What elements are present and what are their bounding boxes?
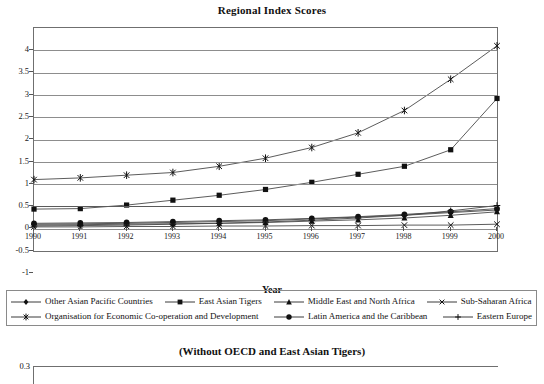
x-tick-label: 1998 — [388, 233, 418, 241]
y-tick-mark — [29, 161, 33, 162]
data-point — [448, 75, 454, 83]
x-tick-mark — [357, 227, 358, 231]
legend-item[interactable]: Latin America and the Caribbean — [274, 311, 427, 323]
x-marker-icon — [427, 296, 457, 308]
data-point — [263, 187, 268, 192]
y-tick-mark — [29, 138, 33, 139]
gridline — [34, 229, 497, 230]
y-tick-mark — [29, 250, 33, 251]
diamond-marker-icon — [11, 296, 41, 308]
legend-label: Organisation for Economic Co-operation a… — [45, 312, 259, 321]
legend-item[interactable]: Eastern Europe — [443, 311, 532, 323]
y-tick-label: 0 — [0, 223, 29, 232]
x-tick-label: 1990 — [18, 233, 48, 241]
x-tick-label: 1996 — [296, 233, 326, 241]
data-point — [356, 172, 361, 177]
x-tick-label: 2000 — [481, 233, 511, 241]
legend-item[interactable]: East Asian Tigers — [165, 296, 262, 308]
y-tick-label: 0.5 — [0, 201, 29, 210]
legend-label: Eastern Europe — [477, 312, 532, 321]
gridline — [34, 117, 497, 118]
legend-label: East Asian Tigers — [199, 297, 262, 306]
x-tick-mark — [496, 227, 497, 231]
subchart-ytick-label: 0.3 — [2, 362, 30, 371]
y-tick-mark — [29, 272, 33, 273]
y-tick-mark — [29, 71, 33, 72]
x-tick-label: 1994 — [203, 233, 233, 241]
legend-row: Other Asian Pacific CountriesEast Asian … — [11, 294, 532, 309]
x-tick-label: 1997 — [342, 233, 372, 241]
x-tick-mark — [79, 227, 80, 231]
data-point — [217, 193, 222, 198]
data-point — [402, 164, 407, 169]
x-tick-mark — [126, 227, 127, 231]
legend-item[interactable]: Sub-Saharan Africa — [427, 296, 532, 308]
y-tick-label: 1.5 — [0, 157, 29, 166]
page-title: Regional Index Scores — [0, 4, 544, 16]
triangle-marker-icon — [274, 296, 304, 308]
y-tick-mark — [29, 94, 33, 95]
legend-row: Organisation for Economic Co-operation a… — [11, 309, 532, 324]
x-tick-mark — [311, 227, 312, 231]
x-tick-label: 1999 — [435, 233, 465, 241]
x-tick-mark — [450, 227, 451, 231]
x-tick-label: 1992 — [111, 233, 141, 241]
x-tick-label: 1995 — [250, 233, 280, 241]
data-point — [494, 42, 500, 50]
legend-item[interactable]: Other Asian Pacific Countries — [11, 296, 153, 308]
gridline — [34, 140, 497, 141]
y-tick-label: 2.5 — [0, 112, 29, 121]
gridline — [34, 95, 497, 96]
legend-label: Latin America and the Caribbean — [308, 312, 427, 321]
legend: Other Asian Pacific CountriesEast Asian … — [6, 290, 537, 326]
y-tick-label: 3.5 — [0, 67, 29, 76]
plus-marker-icon — [443, 311, 473, 323]
subchart-title: (Without OECD and East Asian Tigers) — [0, 345, 544, 357]
x-tick-label: 1993 — [157, 233, 187, 241]
gridline — [34, 162, 497, 163]
chart-page: Regional Index Scores -1-0.500.511.522.5… — [0, 0, 544, 384]
plot-area — [33, 27, 498, 252]
star-marker-icon — [11, 311, 41, 323]
y-tick-label: -0.5 — [0, 246, 29, 255]
y-tick-mark — [29, 49, 33, 50]
data-point — [494, 96, 499, 101]
x-tick-mark — [403, 227, 404, 231]
gridline — [34, 206, 497, 207]
y-tick-mark — [29, 116, 33, 117]
square-marker-icon — [165, 296, 195, 308]
x-tick-mark — [265, 227, 266, 231]
series-line — [34, 99, 497, 210]
y-tick-label: 4 — [0, 45, 29, 54]
y-tick-label: 2 — [0, 134, 29, 143]
gridline — [34, 184, 497, 185]
data-point — [448, 147, 453, 152]
main-chart: -1-0.500.511.522.533.54 1990199119921993… — [0, 22, 544, 254]
gridline — [34, 73, 497, 74]
y-tick-label: 3 — [0, 90, 29, 99]
legend-label: Sub-Saharan Africa — [461, 297, 532, 306]
y-tick-label: -1 — [0, 268, 29, 277]
legend-label: Other Asian Pacific Countries — [45, 297, 153, 306]
data-point — [355, 129, 361, 137]
x-tick-mark — [218, 227, 219, 231]
x-tick-label: 1991 — [64, 233, 94, 241]
gridline — [34, 50, 497, 51]
data-point — [402, 107, 408, 115]
data-point — [170, 198, 175, 203]
y-tick-mark — [29, 205, 33, 206]
legend-label: Middle East and North Africa — [308, 297, 415, 306]
legend-item[interactable]: Organisation for Economic Co-operation a… — [11, 311, 259, 323]
x-tick-mark — [172, 227, 173, 231]
circle-marker-icon — [274, 311, 304, 323]
y-tick-mark — [29, 183, 33, 184]
subchart-plot-area — [33, 366, 498, 384]
x-tick-mark — [33, 227, 34, 231]
legend-item[interactable]: Middle East and North Africa — [274, 296, 415, 308]
series-1 — [31, 96, 499, 212]
y-tick-label: 1 — [0, 179, 29, 188]
